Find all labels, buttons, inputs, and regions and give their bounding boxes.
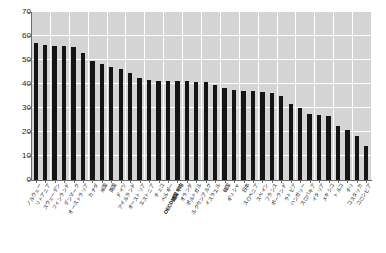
bar	[175, 81, 179, 180]
x-tick-mark	[357, 181, 358, 183]
y-tick-mark	[28, 84, 31, 85]
y-axis-line	[31, 12, 32, 181]
bar	[232, 90, 236, 180]
x-tick-mark	[92, 181, 93, 183]
bar	[109, 67, 113, 180]
bar	[260, 92, 264, 180]
bar	[213, 85, 217, 180]
bar	[336, 126, 340, 180]
bar	[204, 82, 208, 180]
bar	[345, 130, 349, 180]
x-tick-mark	[45, 181, 46, 183]
bar	[156, 81, 160, 180]
bar	[52, 46, 56, 180]
x-tick-mark	[74, 181, 75, 183]
x-tick-mark	[244, 181, 245, 183]
x-tick-mark	[253, 181, 254, 183]
bar	[147, 80, 151, 180]
x-tick-mark	[83, 181, 84, 183]
x-tick-mark	[225, 181, 226, 183]
bar	[289, 104, 293, 180]
x-tick-mark	[215, 181, 216, 183]
x-tick-mark	[272, 181, 273, 183]
bar	[81, 53, 85, 180]
bar	[62, 46, 66, 180]
x-tick-mark	[168, 181, 169, 183]
bar	[71, 47, 75, 180]
x-tick-mark	[36, 181, 37, 183]
bar	[270, 93, 274, 180]
x-tick-mark	[291, 181, 292, 183]
bar	[194, 82, 198, 180]
x-tick-mark	[206, 181, 207, 183]
x-tick-mark	[64, 181, 65, 183]
x-axis-labels: ノルウェーリトアニアスウェーデンフィンランドデンマークオーストラリアカナダ米国英…	[0, 183, 386, 253]
x-tick-mark	[300, 181, 301, 183]
bar	[326, 116, 330, 180]
x-tick-mark	[140, 181, 141, 183]
gridline-vertical	[371, 12, 372, 180]
y-tick-mark	[28, 108, 31, 109]
bar	[34, 43, 38, 180]
x-tick-mark	[347, 181, 348, 183]
x-tick-mark	[177, 181, 178, 183]
y-tick-mark	[28, 12, 31, 13]
bar	[185, 81, 189, 180]
x-tick-mark	[55, 181, 56, 183]
x-tick-mark	[130, 181, 131, 183]
x-tick-mark	[262, 181, 263, 183]
y-tick-mark	[28, 156, 31, 157]
x-tick-mark	[102, 181, 103, 183]
x-tick-mark	[121, 181, 122, 183]
bar	[128, 73, 132, 180]
bar	[43, 45, 47, 180]
bar	[222, 88, 226, 180]
bar	[364, 146, 368, 180]
x-tick-mark	[111, 181, 112, 183]
x-tick-mark	[310, 181, 311, 183]
x-tick-mark	[366, 181, 367, 183]
x-tick-mark	[281, 181, 282, 183]
y-tick-mark	[28, 60, 31, 61]
x-tick-mark	[319, 181, 320, 183]
bar	[279, 96, 283, 180]
plot-area	[31, 12, 371, 180]
bar	[307, 114, 311, 180]
x-tick-mark	[159, 181, 160, 183]
bar	[317, 115, 321, 180]
y-tick-mark	[28, 36, 31, 37]
bar	[241, 91, 245, 180]
x-tick-mark	[234, 181, 235, 183]
bar-series	[31, 12, 371, 180]
x-tick-mark	[329, 181, 330, 183]
x-tick-mark	[149, 181, 150, 183]
x-tick-mark	[196, 181, 197, 183]
bar	[137, 78, 141, 180]
bar	[298, 108, 302, 180]
bar	[90, 61, 94, 180]
y-tick-mark	[28, 180, 31, 181]
y-tick-mark	[28, 132, 31, 133]
bar	[251, 91, 255, 180]
bar	[166, 81, 170, 180]
bar	[355, 136, 359, 180]
bar	[100, 64, 104, 180]
x-tick-mark	[338, 181, 339, 183]
x-tick-mark	[187, 181, 188, 183]
bar	[119, 69, 123, 180]
bar-chart-figure: 010203040506070 ノルウェーリトアニアスウェーデンフィンランドデン…	[0, 0, 386, 253]
